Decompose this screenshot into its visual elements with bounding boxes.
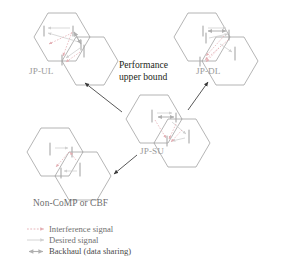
link-interference-3 <box>206 48 219 62</box>
link-desired-2 <box>48 33 79 42</box>
arrow-su-to-jp-dl <box>188 82 208 110</box>
arrow-su-to-non-comp <box>114 155 137 174</box>
link-interference-3 <box>66 52 80 62</box>
cluster-jp-su <box>126 95 210 167</box>
link-interference-2 <box>70 152 76 160</box>
legend-samples <box>27 229 44 252</box>
jp-su-nodes <box>152 110 189 146</box>
legend-label-desired: Desired signal <box>49 235 98 245</box>
link-interference-2 <box>63 32 72 56</box>
cluster-non-comp <box>27 128 111 200</box>
link-interference-1 <box>155 120 166 138</box>
jp-ul-nodes <box>44 26 84 65</box>
arrow-su-to-jp-ul <box>85 83 122 112</box>
performance-annotation-line1: Performance <box>119 59 168 70</box>
comp-scheme-diagram: JP-UL JP-DL JP-SU Non-CoMP or CBF Perfor… <box>0 0 286 268</box>
jp-su-hexagons <box>126 95 210 167</box>
cluster-label-jp-dl: JP-DL <box>196 66 221 77</box>
performance-annotation-line2: upper bound <box>119 71 167 82</box>
non-comp-hexagons <box>27 128 111 200</box>
link-interference-1 <box>56 152 69 167</box>
diagram-canvas <box>0 0 286 268</box>
cluster-label-non-comp: Non-CoMP or CBF <box>33 198 108 209</box>
cluster-label-jp-su: JP-SU <box>140 146 164 157</box>
transition-arrows <box>85 82 208 174</box>
link-desired-2 <box>209 34 228 38</box>
legend-label-backhaul: Backhaul (data sharing) <box>49 246 131 256</box>
cluster-label-jp-ul: JP-UL <box>29 66 54 77</box>
link-desired-3 <box>66 48 80 58</box>
legend-label-interference: Interference signal <box>49 224 113 234</box>
link-desired-3 <box>172 138 185 141</box>
